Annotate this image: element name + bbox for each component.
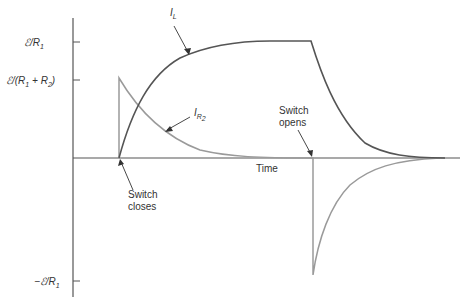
switch-closes-label-2: closes	[128, 201, 156, 212]
switch-closes-arrow	[121, 162, 133, 190]
il-arrow	[174, 26, 188, 52]
switch-opens-label-1: Switch	[279, 105, 308, 116]
switch-closes-label-1: Switch	[128, 189, 157, 200]
time-label: Time	[256, 163, 278, 174]
switch-opens-label-2: opens	[279, 117, 306, 128]
switch-closes-arrowhead	[118, 159, 124, 166]
il-label: IL	[170, 7, 177, 20]
switch-opens-arrow	[298, 130, 311, 154]
ir2-label: IR2	[194, 107, 206, 122]
rl-circuit-transient-diagram: ℰ/R1 ℰ/(R1 + R2) −ℰ/R1 IL IR2 Time Switc…	[0, 0, 464, 306]
y-label-neg-e-r1: −ℰ/R1	[34, 276, 60, 289]
il-curve	[119, 41, 445, 158]
y-label-e-r1r2: ℰ/(R1 + R2)	[6, 75, 55, 88]
y-label-e-r1: ℰ/R1	[24, 37, 44, 50]
switch-opens-arrowhead	[307, 150, 313, 157]
